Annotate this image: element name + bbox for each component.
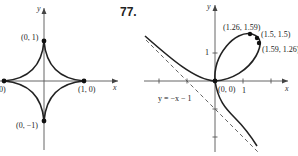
label-0-1: (0, 1) [21,33,39,42]
y-axis-arrow-icon [42,8,47,14]
label-1-0: (1, 0) [78,85,96,94]
point-1.26-1.59 [248,32,252,36]
problem-number: 77. [120,5,137,19]
tick-y-1-label: 1 [205,48,209,57]
label-1.5-1.5: (1.5, 1.5) [261,30,291,39]
point-0-neg1 [42,119,47,124]
point-neg1-0 [2,79,7,84]
label-neg1-0: 0) [0,85,6,94]
folium-left-branch [145,36,215,81]
label-0-neg1: (0, −1) [16,121,38,130]
point-1-0 [82,79,87,84]
x-axis-label: x [112,83,117,92]
label-1.26-1.59: (1.26, 1.59) [223,23,261,32]
y-axis-arrow-icon [213,5,218,11]
folium-loop [215,34,260,81]
folium-figure: (1.26, 1.59) (1.5, 1.5) (1.59, 1.26) (0,… [144,2,298,152]
asymptote-label: y = −x − 1 [158,94,192,103]
point-0-1 [42,39,47,44]
label-origin: (0, 0) [218,85,236,94]
y-axis-label: y [206,2,211,11]
tick-x-1-label: 1 [242,86,246,95]
x-axis-label: x [284,84,289,93]
point-1.5-1.5 [255,36,259,40]
point-1.59-1.26 [257,41,261,45]
astroid-figure: (0, 1) (1, 0) (0, −1) 0) x y [0,4,118,150]
point-origin [213,79,218,84]
label-1.59-1.26: (1.59, 1.26) [262,45,298,54]
y-axis-label: y [36,4,41,13]
figure-canvas: (0, 1) (1, 0) (0, −1) 0) x y 77. [0,0,298,156]
x-axis-arrow-icon [282,79,288,84]
